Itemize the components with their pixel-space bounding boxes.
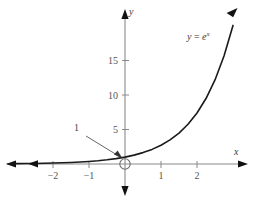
x-axis-label: x — [234, 146, 238, 157]
x-tick-label--2: −2 — [43, 170, 63, 181]
x-tick-label-2: 2 — [187, 170, 207, 181]
curve-right-arrow — [227, 8, 238, 17]
x-axis-right-arrow — [238, 160, 248, 167]
y-tick-label-5: 5 — [100, 124, 118, 135]
y-axis-top-arrow — [121, 9, 128, 19]
x-tick-label-1: 1 — [151, 170, 171, 181]
y-axis-label: y — [129, 6, 133, 17]
intercept-annotation-label: 1 — [74, 122, 79, 133]
x-tick-label--1: −1 — [79, 170, 99, 181]
graph-canvas — [0, 0, 253, 206]
equation-label: y = ex — [187, 30, 210, 42]
intercept-annotation-arrowhead — [114, 151, 123, 159]
y-tick-label-10: 10 — [100, 90, 118, 101]
y-tick-label-15: 15 — [100, 55, 118, 66]
exponential-curve — [8, 25, 233, 163]
equation-exponent: x — [207, 30, 210, 38]
y-axis-bottom-arrow — [121, 186, 128, 196]
curve-left-arrow — [28, 160, 38, 167]
exponential-function-graph: y x 15 10 5 −2 −1 1 2 1 y = ex — [0, 0, 253, 206]
intercept-annotation-leader — [86, 136, 120, 157]
